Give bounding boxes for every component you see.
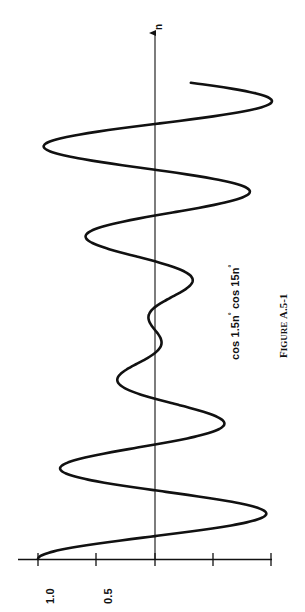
tick-label-0-5: 0.5 xyxy=(102,588,114,604)
caption-prefix-letter: F xyxy=(277,351,289,358)
figure-caption: FIGURE A.5-1 xyxy=(277,294,289,358)
degree-sign-b: ° xyxy=(228,265,235,268)
degree-sign-a: ° xyxy=(228,312,235,315)
caption-number: A.5-1 xyxy=(277,294,289,319)
figure-container: 1.0 0.5 n cos 1.5n° cos 15n° FIGURE A.5-… xyxy=(0,0,305,612)
plot-svg xyxy=(0,0,305,612)
curve-label-term-a: cos 1.5n xyxy=(229,315,241,360)
caption-smallcaps: IGURE xyxy=(279,322,289,352)
tick-label-1-0: 1.0 xyxy=(44,588,56,604)
curve-label-term-b: cos 15n xyxy=(229,267,241,312)
n-axis-label: n xyxy=(153,24,164,30)
curve-label: cos 1.5n° cos 15n° xyxy=(228,265,241,360)
